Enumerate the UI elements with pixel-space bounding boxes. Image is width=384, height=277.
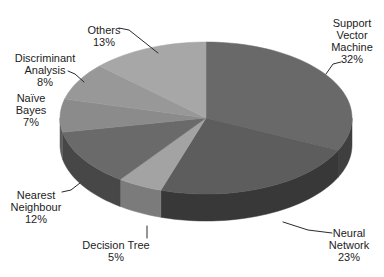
pie-chart: SupportVectorMachine32%NeuralNetwork23%D… [0, 0, 384, 277]
leader-line-neural-network [283, 222, 332, 233]
slice-label-support-vector-machine: SupportVectorMachine32% [331, 17, 373, 65]
leader-line-discriminant-analysis [68, 71, 84, 82]
slice-label-neural-network: NeuralNetwork23% [329, 227, 370, 263]
slice-label-discriminant-analysis: DiscriminantAnalysis8% [15, 52, 76, 88]
leader-line-nearest-neighbour [62, 183, 80, 192]
slice-label-nearest-neighbour: NearestNeighbour12% [11, 189, 62, 225]
leader-line-support-vector-machine [326, 62, 341, 74]
slice-label-others: Others13% [87, 24, 121, 48]
pie-chart-figure: SupportVectorMachine32%NeuralNetwork23%D… [0, 0, 384, 277]
slice-label-na-ve-bayes: NaïveBayes7% [16, 92, 47, 128]
slice-label-decision-tree: Decision Tree5% [82, 239, 149, 263]
